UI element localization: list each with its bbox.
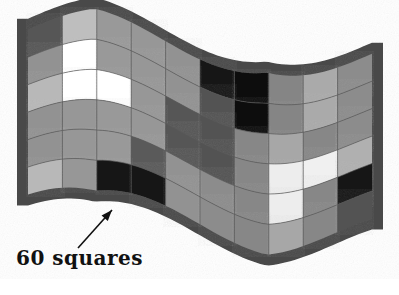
surface-cell [97,160,131,193]
surface-cell [62,129,96,160]
surface-cell [269,132,303,164]
surface-cell [269,161,303,194]
surface-cell [62,39,96,73]
surface-cell [62,69,96,101]
figure-root: 60 squares [0,0,399,295]
surface-cell [62,159,96,191]
surface-cell [62,99,96,130]
surface-cell [234,71,268,103]
surface-cell [269,73,303,105]
surface-cell [269,103,303,134]
surface-cell [97,130,131,165]
annotation-label: 60 squares [16,248,143,268]
surface-cell [234,100,268,134]
pointer-arrow [78,210,112,248]
